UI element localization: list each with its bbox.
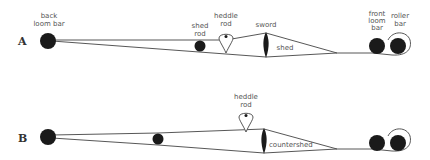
heddle-rod-dot-a: [225, 35, 228, 38]
upper-warp-a: [52, 33, 372, 53]
back-loom-bar-label-1: back: [41, 12, 59, 20]
shed-rod-label-1: shed: [192, 22, 209, 30]
row-label-a: A: [17, 35, 27, 48]
shed-rod-label-2: rod: [194, 30, 205, 38]
heddle-rod-dot-b: [245, 114, 248, 117]
roller-bar-a: [390, 38, 406, 54]
upper-warp-b: [52, 129, 372, 149]
row-label-b: B: [18, 132, 27, 145]
sword-a: [263, 32, 268, 58]
back-loom-bar-b: [40, 129, 56, 145]
sword-label: sword: [256, 21, 277, 29]
roller-bar-b: [390, 135, 406, 151]
heddle-rod-label-b-2: rod: [240, 101, 251, 109]
diagram-a: A back loom bar shed rod heddle rod swor…: [17, 10, 410, 58]
shed-rod-a: [195, 41, 206, 52]
sword-b: [261, 128, 266, 154]
front-loom-bar-a: [369, 38, 385, 54]
roller-bar-label-1: roller: [391, 12, 409, 20]
heddle-rod-label-a-2: rod: [220, 20, 231, 28]
loom-diagram: A back loom bar shed rod heddle rod swor…: [0, 0, 430, 160]
front-loom-bar-label-3: bar: [371, 24, 383, 32]
back-loom-bar-label-2: loom bar: [33, 20, 64, 28]
lower-warp-a: [52, 41, 337, 57]
shed-label: shed: [277, 44, 294, 52]
roller-bar-label-2: bar: [394, 20, 406, 28]
shed-rod-b: [153, 134, 164, 145]
heddle-rod-label-a-1: heddle: [214, 12, 238, 20]
back-loom-bar-a: [40, 33, 56, 49]
diagram-b: B heddle rod countershed: [18, 93, 410, 154]
heddle-rod-label-b-1: heddle: [234, 93, 258, 101]
front-loom-bar-b: [369, 135, 385, 151]
countershed-label: countershed: [269, 141, 313, 149]
